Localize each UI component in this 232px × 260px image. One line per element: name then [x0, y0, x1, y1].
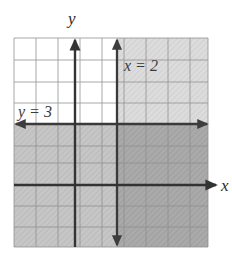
coordinate-plane-figure: y x x = 2 y = 3 [0, 0, 232, 260]
vertical-boundary-label: x = 2 [124, 58, 158, 74]
shaded-regions [14, 38, 208, 247]
graph-canvas [0, 0, 232, 260]
region-upper-right [117, 38, 208, 124]
y-axis-label: y [68, 10, 76, 27]
horizontal-boundary-label: y = 3 [18, 104, 52, 120]
x-axis-label: x [221, 177, 229, 194]
